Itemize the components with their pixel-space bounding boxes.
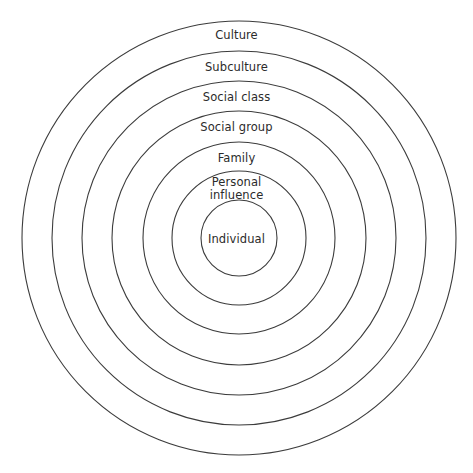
labels-layer: Culture Subculture Social class Social g… [0, 0, 473, 473]
ring-label-subculture: Subculture [0, 61, 473, 74]
ring-label-personal-influence: Personal influence [0, 176, 473, 201]
ring-label-social-class: Social class [0, 91, 473, 104]
ring-label-social-group: Social group [0, 121, 473, 134]
ring-label-family: Family [0, 152, 473, 165]
concentric-circles-diagram: Culture Subculture Social class Social g… [0, 0, 473, 473]
ring-label-individual: Individual [0, 233, 473, 246]
ring-label-culture: Culture [0, 29, 473, 42]
